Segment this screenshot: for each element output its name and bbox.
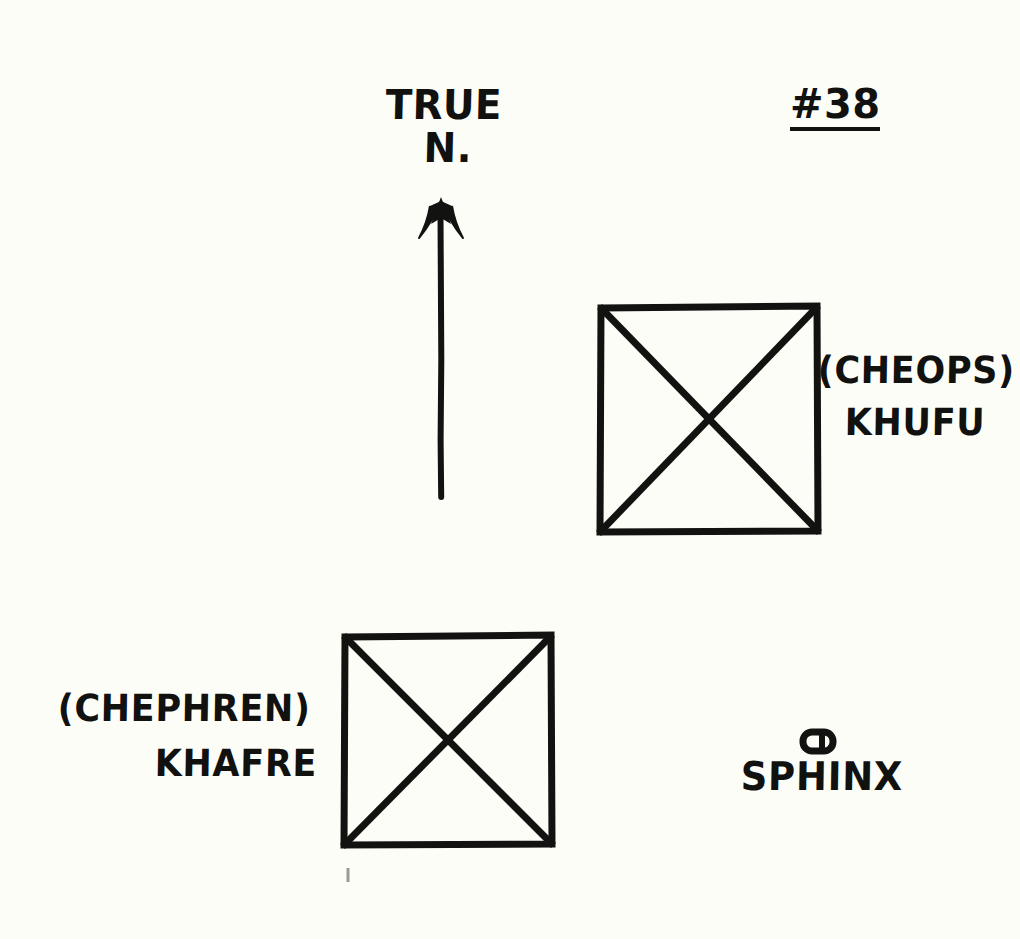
khufu-name-label: KHUFU	[844, 404, 985, 441]
true-north-arrow	[419, 197, 463, 497]
sphinx-outline	[803, 732, 833, 751]
figure-canvas: TRUE N. #38 (CHEOPS) KHUFU (CHEPHREN) KH…	[0, 0, 1020, 939]
north-arrow-shaft	[441, 214, 442, 497]
true-north-label-line2: N.	[423, 127, 473, 168]
khafre-name-label: KHAFRE	[154, 745, 317, 782]
khafre-alt-name-label: (CHEPHREN)	[57, 690, 311, 727]
khufu-alt-name-label: (CHEOPS)	[817, 352, 1015, 389]
sphinx-symbol	[803, 732, 833, 751]
khafre-pyramid-symbol	[344, 635, 552, 882]
true-north-label-line1: TRUE	[385, 84, 503, 125]
plate-number-label: #38	[790, 84, 880, 131]
khufu-pyramid-symbol	[600, 306, 818, 532]
sphinx-name-label: SPHINX	[740, 757, 903, 797]
